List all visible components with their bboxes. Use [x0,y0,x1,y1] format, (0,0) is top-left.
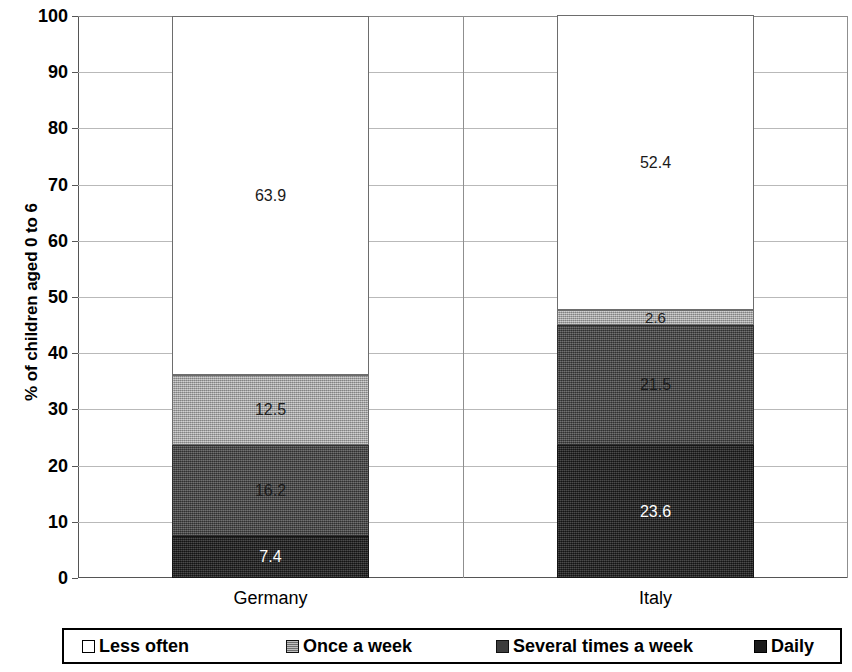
y-tick-mark-50 [72,297,78,298]
segment-value-label: 16.2 [255,482,286,500]
segment-value-label: 63.9 [255,187,286,205]
stacked-bar-chart: % of children aged 0 to 6 7.416.212.563.… [0,0,852,672]
y-tick-label-50: 50 [8,287,68,308]
y-tick-label-10: 10 [8,511,68,532]
y-tick-mark-90 [72,72,78,73]
legend-swatch-daily-icon [754,640,767,653]
y-tick-label-100: 100 [8,6,68,27]
segment-value-label: 7.4 [259,548,281,566]
legend-swatch-several-times-a-week-icon [496,640,509,653]
legend-item-less-often[interactable]: Less often [82,636,189,657]
y-tick-mark-100 [72,16,78,17]
bar-segment-germany-once-a-week[interactable]: 12.5 [172,375,368,445]
bar-segment-germany-several-times-a-week[interactable]: 16.2 [172,445,368,536]
y-tick-mark-40 [72,353,78,354]
chart-legend: Less oftenOnce a weekSeveral times a wee… [62,628,842,664]
bar-italy[interactable]: 23.621.52.652.4 [557,16,753,578]
x-label-germany: Germany [171,588,371,609]
x-label-italy: Italy [556,588,756,609]
legend-item-several-times-a-week[interactable]: Several times a week [496,636,693,657]
plot-right-border [847,16,848,578]
legend-item-label: Several times a week [513,636,693,657]
y-tick-mark-70 [72,185,78,186]
y-tick-label-90: 90 [8,62,68,83]
plot-area: 7.416.212.563.923.621.52.652.4 [78,16,848,578]
segment-value-label: 12.5 [255,401,286,419]
y-tick-label-70: 70 [8,174,68,195]
y-tick-label-0: 0 [8,568,68,589]
y-tick-mark-0 [72,578,78,579]
segment-value-label: 52.4 [640,154,671,172]
bar-segment-italy-several-times-a-week[interactable]: 21.5 [557,325,753,446]
y-tick-label-20: 20 [8,455,68,476]
y-tick-label-30: 30 [8,399,68,420]
segment-value-label: 2.6 [645,310,666,325]
y-tick-mark-10 [72,522,78,523]
bar-segment-germany-less-often[interactable]: 63.9 [172,16,368,375]
legend-item-label: Less often [99,636,189,657]
y-tick-mark-60 [72,241,78,242]
segment-value-label: 21.5 [640,376,671,394]
bar-segment-italy-once-a-week[interactable]: 2.6 [557,310,753,325]
bar-segment-germany-daily[interactable]: 7.4 [172,536,368,578]
legend-item-daily[interactable]: Daily [754,636,814,657]
legend-item-once-a-week[interactable]: Once a week [286,636,412,657]
legend-item-label: Once a week [303,636,412,657]
y-tick-label-40: 40 [8,343,68,364]
y-tick-mark-20 [72,466,78,467]
bar-segment-italy-daily[interactable]: 23.6 [557,445,753,578]
y-tick-label-60: 60 [8,230,68,251]
vertical-gridline-1 [463,16,464,578]
bar-segment-italy-less-often[interactable]: 52.4 [557,15,753,309]
legend-swatch-less-often-icon [82,640,95,653]
segment-value-label: 23.6 [640,503,671,521]
y-tick-mark-30 [72,409,78,410]
bar-germany[interactable]: 7.416.212.563.9 [172,16,368,578]
y-tick-label-80: 80 [8,118,68,139]
y-tick-mark-80 [72,128,78,129]
legend-item-label: Daily [771,636,814,657]
legend-swatch-once-a-week-icon [286,640,299,653]
